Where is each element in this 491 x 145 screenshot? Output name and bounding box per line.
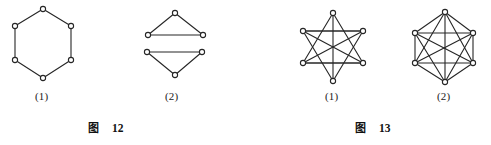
panel-label-fig13-1: (1): [325, 90, 338, 102]
graph-edge: [15, 9, 43, 26]
graph-edge: [148, 13, 175, 35]
graph-edge: [445, 63, 473, 82]
graph-vertex: [470, 30, 475, 35]
graph-hexagon-cycle-graph: [12, 6, 73, 80]
graph-vertex: [68, 57, 73, 62]
graph-edge: [415, 12, 445, 33]
graph-edge: [43, 9, 71, 26]
graph-vertex: [412, 60, 417, 65]
graph-vertex: [40, 6, 45, 11]
graph-edges: [303, 13, 363, 81]
figure-caption-12-number: 12: [112, 122, 124, 134]
panel-label-fig12-1: (1): [35, 90, 48, 102]
graph-vertex: [442, 9, 447, 14]
graph-vertex: [330, 78, 335, 83]
figure-caption-12: 图12: [88, 119, 124, 135]
graph-vertex: [199, 49, 204, 54]
graph-vertex: [300, 28, 305, 33]
graph-vertex: [172, 72, 177, 77]
graph-edges: [147, 13, 203, 75]
graph-edge: [175, 52, 202, 75]
graph-drawing-canvas: [0, 0, 491, 145]
figure-caption-13-number: 13: [379, 122, 391, 134]
graph-vertex: [12, 23, 17, 28]
graph-edge: [147, 52, 175, 75]
graph-complete-graph-hexagonal-layout: [300, 10, 365, 83]
panel-label-fig12-2: (2): [165, 90, 178, 102]
graph-vertex: [470, 60, 475, 65]
graph-edges: [415, 12, 473, 82]
graph-vertex: [12, 57, 17, 62]
graph-vertices: [12, 6, 73, 80]
graph-vertex: [360, 28, 365, 33]
graph-edge: [445, 12, 473, 33]
graph-vertex: [172, 10, 177, 15]
figure-caption-13-word: 图: [355, 122, 366, 135]
panel-label-fig13-2: (2): [437, 90, 450, 102]
graph-edge: [415, 63, 445, 82]
graph-vertices: [144, 10, 205, 77]
graph-vertex: [68, 23, 73, 28]
graph-edge: [15, 60, 43, 78]
graph-vertex: [330, 10, 335, 15]
figure-caption-12-word: 图: [88, 122, 99, 135]
graph-edges: [15, 9, 71, 78]
graph-vertex: [200, 32, 205, 37]
figure-page: (1) (2) (1) (2) 图12 图13: [0, 0, 491, 145]
graph-edge: [175, 13, 203, 35]
graph-vertex: [300, 60, 305, 65]
graph-vertex: [412, 30, 417, 35]
graph-vertex: [40, 75, 45, 80]
graph-vertex: [442, 79, 447, 84]
graph-vertex: [145, 32, 150, 37]
graph-vertex: [144, 49, 149, 54]
graph-complete-graph-tall-layout: [412, 9, 475, 84]
graph-two-triangles-graph: [144, 10, 205, 77]
graph-vertices: [412, 9, 475, 84]
graph-edge: [43, 60, 71, 78]
graph-vertex: [360, 60, 365, 65]
figure-caption-13: 图13: [355, 119, 391, 135]
